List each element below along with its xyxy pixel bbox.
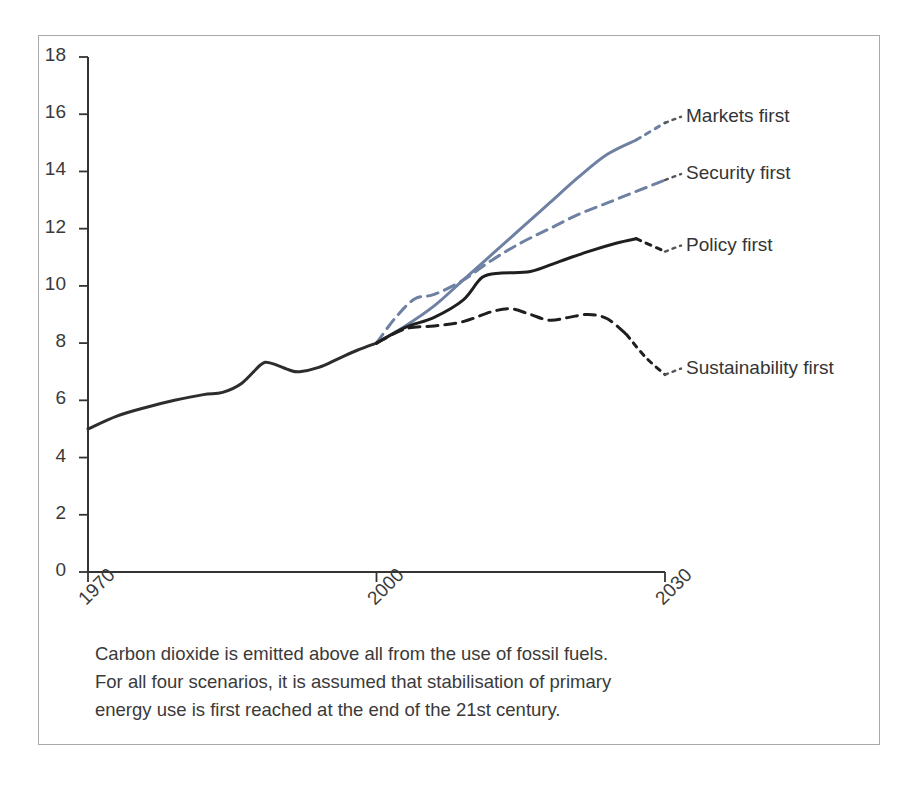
y-tick-label: 8 (32, 330, 66, 352)
caption-line-2: For all four scenarios, it is assumed th… (95, 668, 795, 696)
axes-group (79, 57, 665, 582)
y-tick-label: 4 (32, 445, 66, 467)
series-label-policy-first: Policy first (686, 234, 773, 256)
series-leader-line (665, 174, 681, 180)
series-leader-line (665, 117, 681, 123)
y-tick-label: 2 (32, 502, 66, 524)
series-line-markets-first (377, 140, 637, 343)
caption-line-1: Carbon dioxide is emitted above all from… (95, 640, 795, 668)
series-label-security-first: Security first (686, 162, 791, 184)
series-line-sustainability-first (377, 309, 627, 343)
y-tick-label: 12 (32, 216, 66, 238)
series-line-security-first (377, 180, 666, 343)
series-tail-markets-first (636, 123, 665, 140)
y-tick-label: 0 (32, 559, 66, 581)
series-group (88, 117, 681, 429)
y-tick-label: 10 (32, 273, 66, 295)
y-tick-label: 18 (32, 44, 66, 66)
caption-block: Carbon dioxide is emitted above all from… (95, 640, 795, 724)
y-tick-label: 16 (32, 101, 66, 123)
caption-line-3: energy use is first reached at the end o… (95, 696, 795, 724)
series-label-markets-first: Markets first (686, 105, 789, 127)
series-leader-line (665, 369, 681, 375)
series-label-sustainability-first: Sustainability first (686, 357, 834, 379)
series-tail-policy-first (636, 239, 665, 252)
series-tail-sustainability-first (627, 335, 665, 375)
series-line-historical (88, 343, 377, 429)
y-tick-label: 14 (32, 158, 66, 180)
y-tick-label: 6 (32, 387, 66, 409)
series-leader-line (665, 246, 681, 252)
axis-spine (88, 57, 665, 572)
